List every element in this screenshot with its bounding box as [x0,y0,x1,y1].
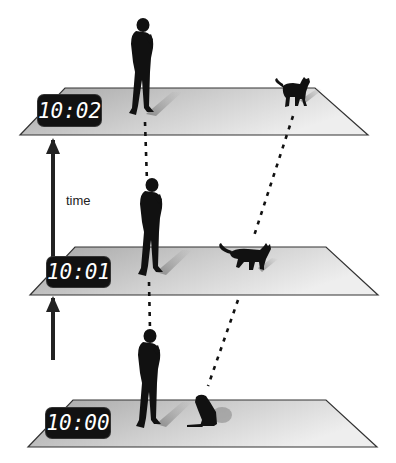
clock-time: 10:02 [38,99,101,123]
arrow-head-upper-icon [46,138,60,154]
time-slices-diagram [0,0,396,463]
clock-time: 10:01 [47,260,110,284]
clock-time: 10:00 [46,411,109,435]
arrow-head-lower-icon [46,296,60,312]
clock-10-02: 10:02 [38,95,101,126]
clock-10-01: 10:01 [47,257,110,287]
clock-10-00: 10:00 [46,408,110,438]
time-axis-label: time [66,193,91,208]
